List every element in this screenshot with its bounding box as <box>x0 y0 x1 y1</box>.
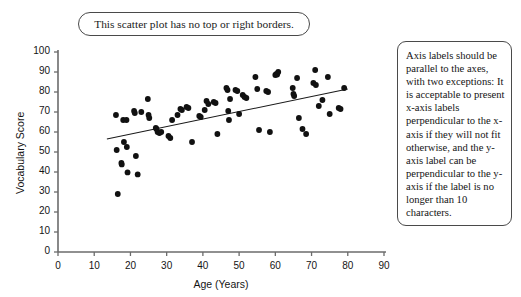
scatter-plot: 0102030405060708090100010203040506070809… <box>0 0 400 297</box>
data-point <box>167 135 173 141</box>
x-tick-label: 0 <box>44 260 72 271</box>
data-point <box>291 93 297 99</box>
data-point <box>145 96 151 102</box>
data-point <box>169 117 175 123</box>
data-point <box>119 162 125 168</box>
y-tick-label: 50 <box>24 145 50 156</box>
y-tick-label: 0 <box>24 245 50 256</box>
data-point <box>290 85 296 91</box>
data-point <box>243 95 249 101</box>
x-tick-label: 20 <box>116 260 144 271</box>
x-tick-label: 60 <box>261 260 289 271</box>
data-point <box>186 105 192 111</box>
data-point <box>124 117 130 123</box>
data-point <box>213 100 219 106</box>
note-text: Axis labels should be parallel to the ax… <box>406 49 505 219</box>
y-tick-label: 30 <box>24 185 50 196</box>
data-point <box>205 101 211 107</box>
x-tick-label: 10 <box>80 260 108 271</box>
data-point <box>124 144 130 150</box>
data-point <box>225 87 231 93</box>
x-tick-label: 80 <box>334 260 362 271</box>
data-point <box>158 129 164 135</box>
data-point <box>133 153 139 159</box>
data-point <box>256 127 262 133</box>
data-point <box>234 88 240 94</box>
data-point <box>312 67 318 73</box>
data-point <box>267 129 273 135</box>
data-point <box>253 74 259 80</box>
y-tick-label: 20 <box>24 205 50 216</box>
y-tick-label: 100 <box>24 45 50 56</box>
data-point <box>325 74 331 80</box>
data-point <box>175 112 181 118</box>
y-tick-label: 90 <box>24 65 50 76</box>
data-points-group <box>113 67 347 197</box>
data-point <box>189 139 195 145</box>
data-point <box>313 82 319 88</box>
y-tick-label: 70 <box>24 105 50 116</box>
data-point <box>214 131 220 137</box>
data-point <box>300 126 306 132</box>
data-point <box>327 111 333 117</box>
data-point <box>146 115 152 121</box>
x-axis-title: Age (Years) <box>151 278 291 290</box>
data-point <box>198 114 204 120</box>
data-point <box>303 131 309 137</box>
data-point <box>296 115 302 121</box>
data-point <box>115 191 121 197</box>
data-point <box>202 107 208 113</box>
data-point <box>225 108 231 114</box>
x-tick-label: 40 <box>189 260 217 271</box>
data-point <box>265 89 271 95</box>
data-point <box>320 97 326 103</box>
data-point <box>294 75 300 81</box>
data-point <box>125 170 131 176</box>
data-point <box>226 117 232 123</box>
data-point <box>114 147 120 153</box>
data-point <box>135 172 141 178</box>
figure-page: This scatter plot has no top or right bo… <box>0 0 521 297</box>
x-tick-label: 70 <box>298 260 326 271</box>
x-tick-label: 50 <box>225 260 253 271</box>
plot-canvas <box>0 0 400 297</box>
y-tick-label: 60 <box>24 125 50 136</box>
data-point <box>316 103 322 109</box>
note-callout: Axis labels should be parallel to the ax… <box>397 41 512 226</box>
x-tick-label: 30 <box>153 260 181 271</box>
data-point <box>121 139 127 145</box>
y-tick-label: 40 <box>24 165 50 176</box>
data-point <box>275 69 281 75</box>
data-point <box>113 112 119 118</box>
y-tick-label: 80 <box>24 85 50 96</box>
y-axis-title: Vocabulary Score <box>14 112 26 194</box>
data-point <box>338 106 344 112</box>
x-tick-label: 90 <box>370 260 398 271</box>
data-point <box>227 96 233 102</box>
data-point <box>132 110 138 116</box>
data-point <box>341 85 347 91</box>
data-point <box>138 109 144 115</box>
data-point <box>236 111 242 117</box>
y-tick-label: 10 <box>24 225 50 236</box>
data-point <box>254 86 260 92</box>
